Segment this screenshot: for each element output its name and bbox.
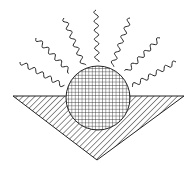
sun-over-triangle-diagram [0, 0, 190, 172]
crosshatched-sun [66, 66, 130, 130]
wavy-ray [36, 38, 69, 73]
wavy-ray [20, 62, 64, 87]
wavy-ray [132, 61, 176, 87]
wavy-ray [94, 10, 99, 62]
wavy-ray [125, 38, 160, 71]
wavy-ray [111, 18, 130, 67]
wavy-ray [63, 18, 86, 65]
